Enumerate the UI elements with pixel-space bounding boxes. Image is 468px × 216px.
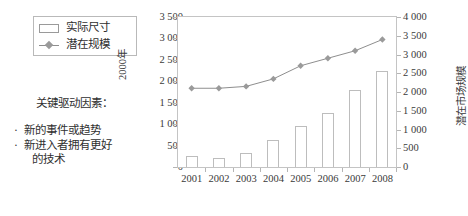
x-axis-tick-mark (233, 168, 234, 172)
y2-axis-tick-label: 3 500 (403, 31, 447, 42)
line-path (192, 40, 383, 89)
x-axis-tick-mark (396, 168, 397, 172)
legend-item-actual-size: 实际尺寸 (39, 19, 110, 37)
y2-axis-tick-mark (397, 73, 401, 74)
bullet-icon: · (14, 138, 18, 153)
x-axis-tick-mark (314, 168, 315, 172)
y2-axis-tick-label: 4 000 (403, 12, 447, 23)
x-axis-tick-mark (205, 168, 206, 172)
combo-chart: 2000年 潜在市场规模 05001 0001 5002 0002 5003 0… (120, 8, 464, 208)
y2-axis-title: 潜在市场规模 (457, 66, 468, 126)
y2-axis-tick-mark (397, 92, 401, 93)
line-marker (325, 55, 331, 61)
y2-axis-tick-label: 2 000 (403, 87, 447, 98)
line-marker (352, 48, 358, 54)
legend-item-potential-scale: 潜在规模 (39, 36, 110, 54)
list-item-label: 新进入者拥有更好 (24, 139, 112, 151)
x-axis-tick-label: 2008 (365, 174, 399, 185)
bar (186, 156, 198, 167)
bar (240, 153, 252, 167)
line-marker (188, 85, 194, 91)
y2-axis-tick-mark (397, 111, 401, 112)
plot-inner (178, 17, 396, 167)
y2-axis-tick-label: 3 000 (403, 50, 447, 61)
legend-item-label: 实际尺寸 (66, 22, 110, 34)
bar (213, 158, 225, 167)
y2-axis-tick-label: 2 500 (403, 68, 447, 79)
potential-scale-line (178, 17, 396, 167)
y2-axis-tick-mark (397, 36, 401, 37)
bar (322, 113, 334, 167)
legend-item-label: 潜在规模 (66, 39, 110, 51)
x-axis-tick-mark (287, 168, 288, 172)
line-marker (243, 83, 249, 89)
line-marker (379, 36, 385, 42)
y2-axis-tick-mark (397, 130, 401, 131)
y2-axis-tick-label: 1 500 (403, 106, 447, 117)
y2-axis-tick-label: 0 (403, 162, 447, 173)
bar (295, 126, 307, 167)
y2-axis-tick-label: 1 000 (403, 125, 447, 136)
line-marker (297, 63, 303, 69)
list-item-label: 新的事件或趋势 (24, 124, 101, 136)
y2-axis-tick-mark (397, 148, 401, 149)
plot-area (177, 16, 397, 168)
y2-axis-tick-mark (397, 167, 401, 168)
x-axis-tick-mark (342, 168, 343, 172)
x-axis-tick-mark (369, 168, 370, 172)
list-item-label: 的技术 (32, 153, 65, 165)
line-diamond-icon (39, 41, 59, 50)
bar-swatch-icon (39, 24, 59, 33)
bar (376, 71, 388, 167)
y2-axis-tick-mark (397, 55, 401, 56)
bullet-icon: · (14, 123, 18, 138)
y2-axis-tick-label: 500 (403, 143, 447, 154)
y-axis-title: 2000年 (118, 49, 129, 80)
bar (267, 140, 279, 167)
line-marker (270, 76, 276, 82)
bar (349, 90, 361, 167)
y2-axis-tick-mark (397, 17, 401, 18)
line-marker (216, 85, 222, 91)
x-axis-tick-mark (260, 168, 261, 172)
